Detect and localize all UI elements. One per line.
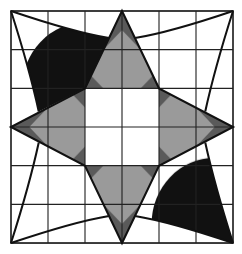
quilt-diagram [0, 0, 242, 254]
